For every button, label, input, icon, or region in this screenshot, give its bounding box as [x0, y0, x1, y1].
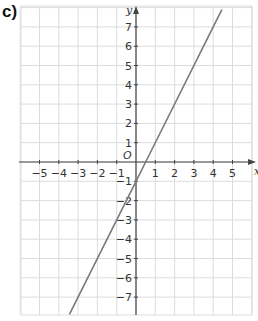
- y-tick-label: 5: [125, 60, 132, 73]
- y-tick-label: −4: [116, 233, 132, 246]
- x-tick-label: −2: [89, 167, 105, 180]
- y-tick-label: 4: [125, 79, 132, 92]
- x-tick-label: −3: [70, 167, 86, 180]
- y-tick-label: −5: [116, 253, 132, 266]
- axes: [19, 6, 256, 315]
- x-axis-label: x: [254, 165, 258, 178]
- x-tick-label: 2: [171, 167, 178, 180]
- y-tick-label: 3: [125, 98, 132, 111]
- x-tick-label: 1: [152, 167, 159, 180]
- tick-labels: −5−4−3−2−1123457654321−1−2−3−4−5−6−7xyO: [31, 4, 258, 304]
- x-tick-label: −4: [51, 167, 67, 180]
- x-tick-label: 3: [190, 167, 197, 180]
- y-tick-label: 6: [125, 40, 132, 53]
- x-tick-label: 5: [229, 167, 236, 180]
- y-tick-label: 1: [125, 137, 132, 150]
- y-axis-label: y: [125, 4, 133, 17]
- y-tick-label: 2: [125, 117, 132, 130]
- x-tick-label: 4: [210, 167, 217, 180]
- x-tick-label: −5: [31, 167, 47, 180]
- coordinate-grid-chart: −5−4−3−2−1123457654321−1−2−3−4−5−6−7xyO: [0, 0, 258, 321]
- origin-label: O: [123, 149, 132, 162]
- y-tick-label: −7: [116, 291, 132, 304]
- y-tick-label: 7: [125, 21, 132, 34]
- y-tick-label: −6: [116, 272, 132, 285]
- y-tick-label: −1: [116, 175, 132, 188]
